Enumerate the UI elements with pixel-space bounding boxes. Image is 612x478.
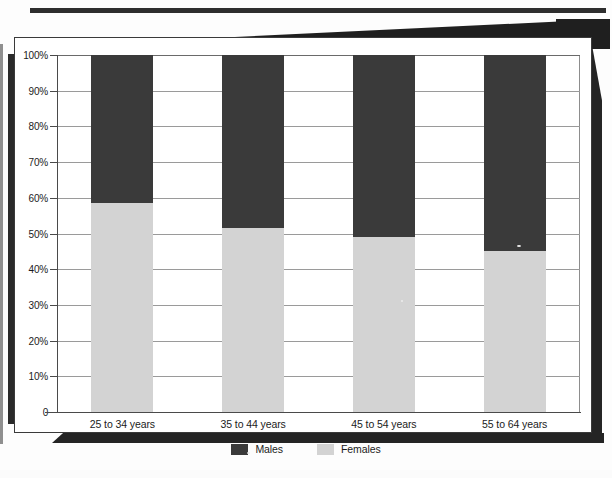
y-tick-40: [50, 269, 58, 270]
y-axis-label: 70%: [0, 157, 48, 168]
x-axis-line: [45, 412, 581, 413]
y-axis-label: 20%: [0, 335, 48, 346]
y-tick-90: [50, 91, 58, 92]
y-axis-label: 30%: [0, 299, 48, 310]
bar-segment-males: [91, 55, 153, 203]
y-tick-100: [50, 55, 58, 56]
bar-segment-females: [353, 237, 415, 412]
y-axis-label: 0: [0, 407, 48, 418]
legend-swatch-icon: [231, 444, 248, 455]
legend-label: Females: [341, 443, 381, 455]
chart-legend: MalesFemales: [0, 443, 612, 455]
y-axis-label: 50%: [0, 228, 48, 239]
scan-speckle: [247, 452, 250, 454]
bar-segment-males: [353, 55, 415, 237]
scan-speckle: [517, 245, 521, 247]
bar-4: [484, 55, 546, 412]
y-tick-30: [50, 305, 58, 306]
bar-segment-females: [222, 228, 284, 412]
scanned-page-canvas: 010%20%30%40%50%60%70%80%90%100% 25 to 3…: [0, 0, 612, 478]
stacked-bar-chart: 010%20%30%40%50%60%70%80%90%100% 25 to 3…: [0, 0, 612, 478]
bar-segment-males: [222, 55, 284, 228]
bar-segment-females: [484, 251, 546, 412]
y-tick-20: [50, 341, 58, 342]
bar-segment-females: [91, 203, 153, 412]
y-tick-70: [50, 162, 58, 163]
y-axis-label: 90%: [0, 85, 48, 96]
y-tick-50: [50, 234, 58, 235]
y-tick-80: [50, 126, 58, 127]
y-axis-label: 40%: [0, 264, 48, 275]
y-tick-60: [50, 198, 58, 199]
y-axis-label: 60%: [0, 192, 48, 203]
y-axis-label: 10%: [0, 371, 48, 382]
bar-3: [353, 55, 415, 412]
bar-segment-males: [484, 55, 546, 251]
legend-item-females: Females: [317, 443, 381, 455]
legend-item-males: Males: [231, 443, 283, 455]
bar-1: [91, 55, 153, 412]
scan-speckle: [401, 300, 403, 302]
x-axis-label-1: 25 to 34 years: [62, 418, 182, 430]
y-axis-label: 80%: [0, 121, 48, 132]
y-tick-10: [50, 376, 58, 377]
bar-2: [222, 55, 284, 412]
legend-swatch-icon: [317, 444, 334, 455]
x-axis-label-2: 35 to 44 years: [193, 418, 313, 430]
legend-label: Males: [255, 443, 283, 455]
x-axis-label-4: 55 to 64 years: [455, 418, 575, 430]
x-axis-label-3: 45 to 54 years: [324, 418, 444, 430]
y-axis-label: 100%: [0, 50, 48, 61]
